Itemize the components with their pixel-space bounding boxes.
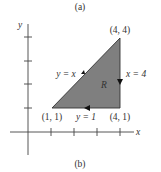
vertex-label-1-1: (1, 1)	[42, 112, 63, 123]
x-axis-label: x	[135, 127, 141, 137]
vertex-label-4-1: (4, 1)	[110, 112, 131, 123]
edge-label-y-eq-1: y = 1	[75, 112, 96, 122]
y-axis-label: y	[17, 20, 23, 30]
region-label: R	[100, 80, 107, 90]
arrow-icon-y-eq-x	[81, 70, 85, 74]
edge-label-x-eq-4: x = 4	[125, 69, 146, 79]
caption-top: (a)	[75, 2, 86, 13]
region-diagram: (a) y x (4, 4) (1, 1) (4, 1) y = x x = 4…	[0, 0, 161, 172]
edge-label-y-eq-x: y = x	[55, 69, 76, 79]
vertex-label-4-4: (4, 4)	[110, 25, 131, 36]
caption-bottom: (b)	[74, 159, 85, 170]
